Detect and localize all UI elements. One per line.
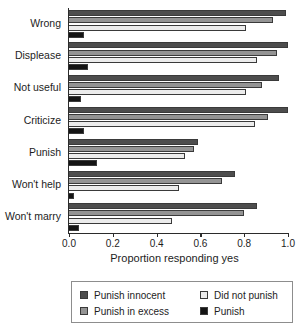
bar	[69, 107, 288, 113]
bar	[69, 171, 235, 177]
bar	[69, 160, 97, 166]
bar	[69, 153, 185, 159]
legend-swatch-icon	[200, 307, 208, 315]
y-axis-label: Wrong	[0, 18, 61, 29]
bar	[69, 139, 198, 145]
bar	[69, 146, 194, 152]
chart-legend: Punish innocent Did not punish Punish in…	[71, 281, 293, 323]
bar	[69, 64, 88, 70]
bar	[69, 128, 84, 134]
bar	[69, 96, 81, 102]
bar	[69, 89, 246, 95]
bar-group	[69, 137, 288, 169]
x-tick-label: 0.8	[237, 238, 251, 249]
bar	[69, 121, 255, 127]
bar-group	[69, 72, 288, 104]
bar	[69, 10, 286, 16]
bar	[69, 50, 277, 56]
x-tick-mark	[200, 233, 201, 237]
y-axis-label: Displease	[0, 50, 61, 61]
x-tick-label: 1.0	[281, 238, 295, 249]
x-tick-mark	[69, 233, 70, 237]
bar	[69, 218, 172, 224]
legend-row: Punish innocent Did not punish	[80, 287, 286, 303]
bar	[69, 32, 84, 38]
bar-group	[69, 201, 288, 233]
x-tick-label: 0.4	[150, 238, 164, 249]
y-axis-label: Won't help	[0, 179, 61, 190]
legend-item-punish-in-excess: Punish in excess	[80, 306, 200, 317]
x-tick-mark	[113, 233, 114, 237]
legend-label: Punish in excess	[94, 306, 169, 317]
bar	[69, 210, 244, 216]
bar	[69, 57, 257, 63]
x-tick-label: 0.6	[193, 238, 207, 249]
legend-item-did-not-punish: Did not punish	[200, 290, 278, 301]
y-axis-category-labels: WrongDispleaseNot usefulCriticizePunishW…	[0, 8, 64, 233]
x-axis-title: Proportion responding yes	[0, 252, 303, 264]
bar	[69, 42, 288, 48]
bar-group	[69, 169, 288, 201]
bar	[69, 114, 268, 120]
legend-label: Punish innocent	[94, 290, 165, 301]
legend-row: Punish in excess Punish	[80, 303, 286, 319]
bar	[69, 225, 79, 231]
legend-item-punish-innocent: Punish innocent	[80, 290, 200, 301]
bar	[69, 82, 262, 88]
bar-group	[69, 104, 288, 136]
bar	[69, 75, 279, 81]
x-tick-label: 0.0	[62, 238, 76, 249]
legend-label: Punish	[214, 306, 245, 317]
x-tick-mark	[288, 233, 289, 237]
x-tick-mark	[244, 233, 245, 237]
legend-swatch-icon	[200, 291, 208, 299]
y-axis-label: Criticize	[0, 115, 61, 126]
y-axis-label: Punish	[0, 147, 61, 158]
bar	[69, 178, 222, 184]
legend-swatch-icon	[80, 307, 88, 315]
legend-label: Did not punish	[214, 290, 278, 301]
y-axis-label: Won't marry	[0, 211, 61, 222]
bar	[69, 203, 257, 209]
axes	[69, 8, 288, 233]
bar	[69, 17, 273, 23]
bar-group	[69, 40, 288, 72]
x-tick-label: 0.2	[106, 238, 120, 249]
legend-item-punish: Punish	[200, 306, 245, 317]
legend-swatch-icon	[80, 291, 88, 299]
plot-area: WrongDispleaseNot usefulCriticizePunishW…	[0, 0, 303, 268]
grouped-bar-chart: WrongDispleaseNot usefulCriticizePunishW…	[0, 0, 303, 328]
bar	[69, 25, 246, 31]
bar	[69, 185, 179, 191]
y-axis-label: Not useful	[0, 82, 61, 93]
bar-group	[69, 8, 288, 40]
bar	[69, 193, 74, 199]
x-tick-mark	[157, 233, 158, 237]
